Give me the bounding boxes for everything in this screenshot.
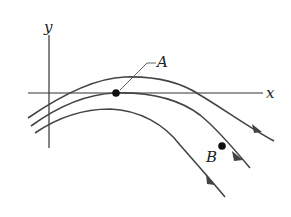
y-axis-label: y <box>43 18 53 36</box>
arrow-icon <box>252 124 262 133</box>
x-axis-label: x <box>266 84 275 102</box>
point-a-label: A <box>155 53 168 71</box>
streamline-1 <box>28 77 274 141</box>
streamline-2 <box>31 93 250 168</box>
point-a <box>112 89 120 97</box>
streamline-3 <box>35 109 225 197</box>
point-b <box>218 142 226 150</box>
streamline-diagram: y x A B <box>0 0 291 217</box>
point-b-label: B <box>205 148 217 166</box>
